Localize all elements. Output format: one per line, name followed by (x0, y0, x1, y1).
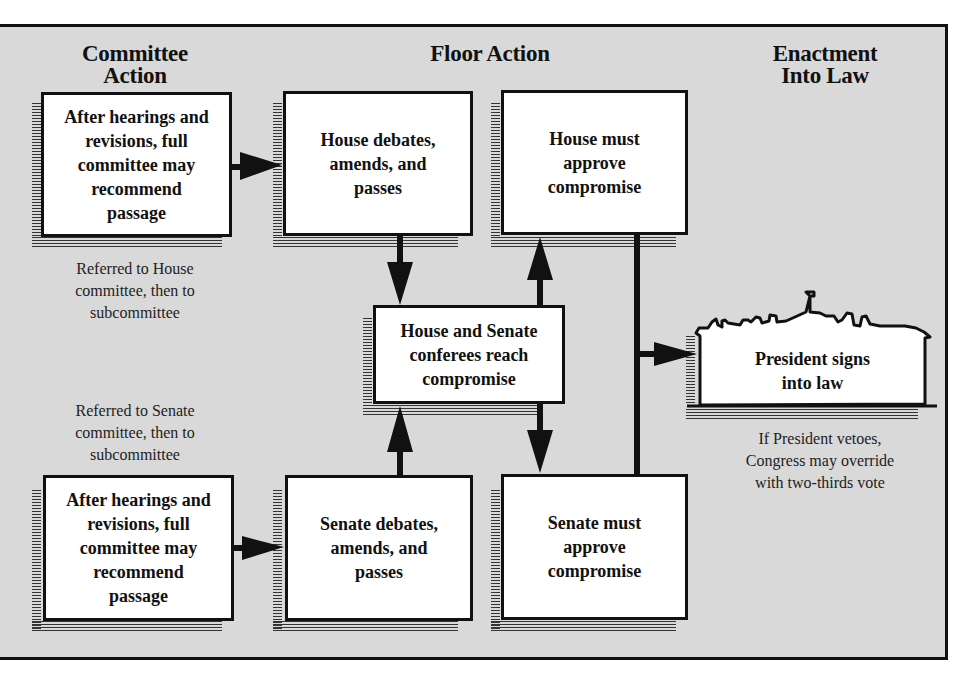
arrow-up-icon (527, 237, 553, 305)
flow-arrows (0, 0, 974, 681)
arrow-up-icon (387, 406, 413, 475)
arrow-down-icon (527, 404, 553, 473)
arrow-right-icon (637, 342, 697, 366)
arrow-right-icon (232, 152, 282, 180)
arrow-right-icon (234, 536, 284, 560)
arrow-down-icon (387, 236, 413, 305)
